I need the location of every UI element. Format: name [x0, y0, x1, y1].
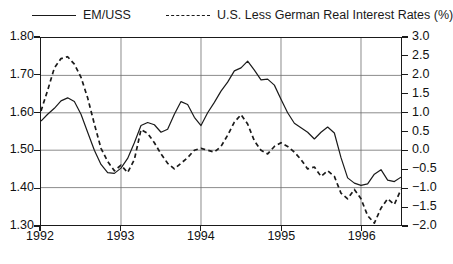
x-axis-tick-label: 1992 — [15, 230, 65, 243]
x-axis-tick-label: 1993 — [95, 230, 145, 243]
legend-swatch-solid-icon — [32, 15, 76, 16]
y-axis-left-tick-mark — [34, 36, 40, 37]
x-axis-tick-mark — [281, 226, 282, 231]
y-axis-right-tick-label: −2.0 — [412, 219, 437, 232]
legend-entry-emuss: EM/USS — [32, 8, 131, 22]
x-axis-tick-label: 1996 — [337, 230, 387, 243]
y-axis-left-tick-label: 1.70 — [10, 68, 34, 81]
y-axis-right-tick-label: 3.0 — [412, 30, 429, 43]
y-axis-right-tick-mark — [402, 74, 408, 75]
y-axis-right-tick-label: 0.5 — [412, 125, 429, 138]
plot-svg — [41, 38, 401, 225]
y-axis-right-tick-mark — [402, 112, 408, 113]
y-axis-left-tick-mark — [34, 74, 40, 75]
y-axis-right-tick-mark — [402, 55, 408, 56]
x-axis-tick-mark — [120, 226, 121, 231]
y-axis-right-tick-label: 2.5 — [412, 49, 429, 62]
y-axis-left-tick-mark — [34, 188, 40, 189]
legend-label-rates: U.S. Less German Real Interest Rates (%) — [217, 8, 453, 22]
y-axis-right-tick-label: −1.0 — [412, 181, 437, 194]
y-axis-right-tick-mark — [402, 188, 408, 189]
y-axis-right-tick-mark — [402, 150, 408, 151]
series-layer — [41, 57, 401, 223]
y-axis-right-tick-label: 1.0 — [412, 106, 429, 119]
y-axis-right-tick-label: 2.0 — [412, 68, 429, 81]
x-axis-tick-label: 1994 — [176, 230, 226, 243]
y-axis-right-tick-mark — [402, 207, 408, 208]
y-axis-right-tick-mark — [402, 169, 408, 170]
chart-legend: EM/USS U.S. Less German Real Interest Ra… — [0, 6, 451, 32]
x-axis-tick-mark — [200, 226, 201, 231]
x-axis-tick-label: 1995 — [256, 230, 306, 243]
x-axis-tick-mark — [39, 226, 40, 231]
legend-label-emuss: EM/USS — [83, 8, 131, 22]
y-axis-right-tick-mark — [402, 36, 408, 37]
y-axis-right-tick-label: 1.5 — [412, 87, 429, 100]
y-axis-left-tick-label: 1.60 — [10, 106, 34, 119]
series-line-interest-rates — [41, 57, 401, 223]
y-axis-right-tick-mark — [402, 131, 408, 132]
y-axis-right-tick-mark — [402, 225, 408, 226]
y-axis-left-tick-label: 1.40 — [10, 181, 34, 194]
y-axis-right-tick-label: 0.0 — [412, 143, 429, 156]
plot-area — [40, 37, 402, 226]
legend-entry-rates: U.S. Less German Real Interest Rates (%) — [166, 8, 453, 22]
legend-swatch-dashed-icon — [166, 15, 210, 16]
y-axis-left-tick-mark — [34, 112, 40, 113]
y-axis-right-tick-label: −0.5 — [412, 162, 437, 175]
x-axis-tick-mark — [361, 226, 362, 231]
vertical-gridlines — [121, 38, 361, 225]
y-axis-left-tick-label: 1.50 — [10, 143, 34, 156]
y-axis-left-tick-label: 1.80 — [10, 30, 34, 43]
y-axis-right-tick-label: −1.5 — [412, 200, 437, 213]
y-axis-right-tick-mark — [402, 93, 408, 94]
series-line-emuss — [41, 61, 401, 185]
y-axis-left-tick-mark — [34, 150, 40, 151]
